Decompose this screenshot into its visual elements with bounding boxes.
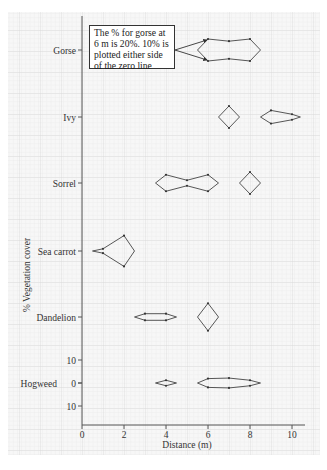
- data-point: [144, 313, 146, 315]
- species-label: Ivy: [63, 113, 76, 123]
- data-point: [228, 58, 230, 60]
- data-point: [207, 386, 209, 388]
- data-point: [249, 171, 251, 173]
- data-point: [270, 123, 272, 125]
- x-tick-label: 8: [248, 430, 253, 440]
- gorse-annotation: The % for gorse at 6 m is 20%. 10% is pl…: [89, 25, 175, 69]
- scale-tick-label: 10: [67, 402, 77, 412]
- data-point: [207, 378, 209, 380]
- scale-tick-label: 10: [67, 356, 77, 366]
- data-point: [228, 377, 230, 379]
- data-point: [207, 302, 209, 304]
- data-point: [228, 105, 230, 107]
- data-point: [144, 319, 146, 321]
- x-axis-label: Distance (m): [162, 440, 211, 451]
- data-point: [228, 40, 230, 42]
- data-point: [228, 127, 230, 129]
- species-label: Hogweed: [21, 379, 58, 389]
- data-point: [165, 313, 167, 315]
- data-point: [102, 252, 104, 254]
- data-point: [207, 60, 209, 62]
- data-point: [102, 248, 104, 250]
- data-point: [249, 60, 251, 62]
- x-tick-label: 6: [206, 430, 211, 440]
- data-point: [165, 385, 167, 387]
- species-label: Sorrel: [53, 179, 77, 189]
- data-point: [207, 190, 209, 192]
- data-point: [186, 185, 188, 187]
- x-tick-label: 2: [122, 430, 127, 440]
- x-tick-label: 0: [80, 430, 85, 440]
- data-point: [165, 319, 167, 321]
- data-point: [123, 265, 125, 267]
- grid: [8, 12, 320, 455]
- data-point: [207, 174, 209, 176]
- x-tick-label: 10: [287, 430, 297, 440]
- data-point: [123, 235, 125, 237]
- y-axis-label: % Vegetation cover: [22, 237, 32, 312]
- kite-chart: 0246810Distance (m)% Vegetation coverGor…: [0, 0, 327, 470]
- data-point: [291, 113, 293, 115]
- data-point: [165, 190, 167, 192]
- data-point: [249, 379, 251, 381]
- data-point: [165, 379, 167, 381]
- data-point: [249, 38, 251, 40]
- x-tick-label: 4: [164, 430, 169, 440]
- scale-tick-label: 0: [71, 379, 76, 389]
- data-point: [270, 109, 272, 111]
- species-label: Sea carrot: [38, 247, 77, 257]
- data-point: [291, 119, 293, 121]
- data-point: [228, 387, 230, 389]
- data-point: [165, 174, 167, 176]
- species-label: Dandelion: [36, 313, 76, 323]
- species-label: Gorse: [53, 46, 76, 56]
- data-point: [249, 385, 251, 387]
- data-point: [207, 330, 209, 332]
- data-point: [207, 38, 209, 40]
- data-point: [249, 193, 251, 195]
- data-point: [186, 179, 188, 181]
